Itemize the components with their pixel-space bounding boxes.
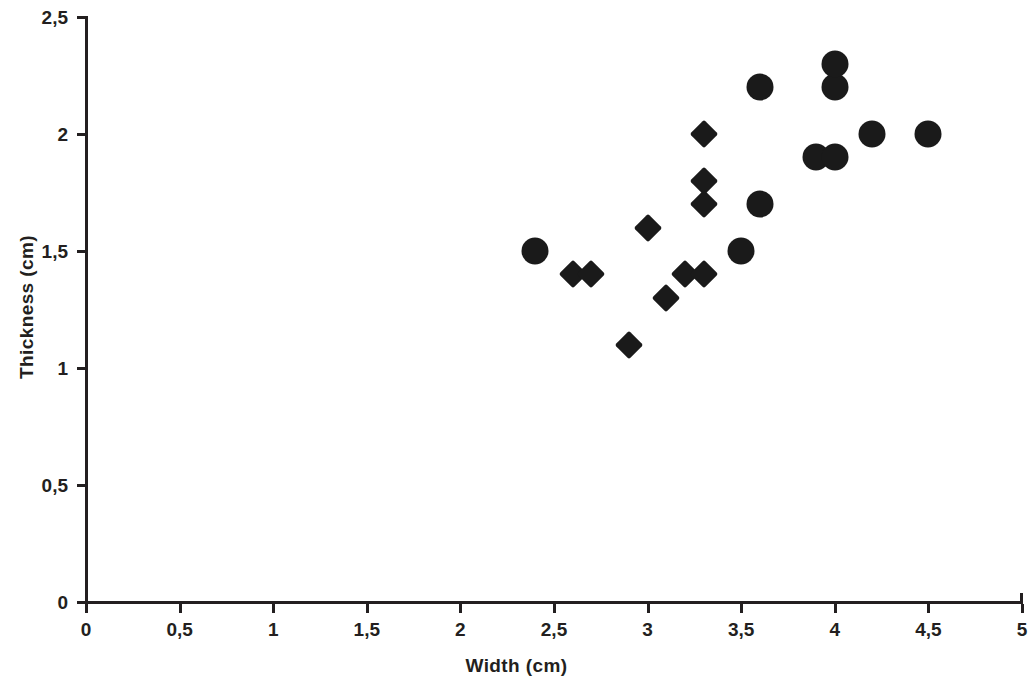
x-tick-mark	[740, 604, 743, 613]
x-tick-mark	[85, 604, 88, 613]
y-tick-mark	[77, 250, 86, 253]
data-point-diamond	[690, 260, 718, 288]
x-tick-label: 5	[1017, 620, 1028, 639]
x-tick-label: 2,5	[541, 620, 567, 639]
data-point-diamond	[652, 284, 680, 312]
x-tick-mark	[272, 604, 275, 613]
x-tick-label: 4,5	[915, 620, 941, 639]
data-point-diamond	[615, 330, 643, 358]
x-tick-label: 2	[455, 620, 466, 639]
y-tick-mark	[77, 16, 86, 19]
data-point-circle	[522, 238, 549, 265]
x-tick-label: 1,5	[354, 620, 380, 639]
x-tick-label: 3,5	[728, 620, 754, 639]
x-tick-mark	[1021, 604, 1024, 613]
data-point-circle	[746, 191, 773, 218]
data-point-circle	[821, 74, 848, 101]
x-tick-label: 3	[642, 620, 653, 639]
y-tick-label: 2,5	[0, 8, 68, 27]
x-tick-label: 1	[268, 620, 279, 639]
y-tick-mark	[77, 484, 86, 487]
y-tick-label: 0	[0, 593, 68, 612]
y-tick-label: 0,5	[0, 476, 68, 495]
x-tick-mark	[834, 604, 837, 613]
data-point-circle	[746, 74, 773, 101]
y-tick-mark	[77, 367, 86, 370]
data-point-diamond	[690, 167, 718, 195]
x-tick-mark	[647, 604, 650, 613]
x-tick-mark	[366, 604, 369, 613]
x-tick-mark	[459, 604, 462, 613]
x-tick-mark	[179, 604, 182, 613]
data-point-circle	[821, 144, 848, 171]
data-point-circle	[859, 121, 886, 148]
x-axis-end-cap	[1020, 593, 1023, 602]
y-tick-mark	[77, 133, 86, 136]
data-point-circle	[728, 238, 755, 265]
x-axis-title: Width (cm)	[0, 655, 1033, 677]
data-point-circle	[821, 50, 848, 77]
y-tick-label: 2	[0, 125, 68, 144]
data-point-diamond	[633, 213, 661, 241]
y-axis-line	[85, 16, 88, 604]
x-tick-label: 0,5	[166, 620, 192, 639]
data-point-diamond	[577, 260, 605, 288]
data-point-circle	[915, 121, 942, 148]
data-point-diamond	[690, 120, 718, 148]
x-tick-mark	[927, 604, 930, 613]
scatter-chart: 00,511,522,5 00,511,522,533,544,55 Width…	[0, 0, 1033, 683]
y-axis-title: Thickness (cm)	[16, 177, 38, 437]
x-tick-label: 0	[81, 620, 92, 639]
x-tick-mark	[553, 604, 556, 613]
x-tick-label: 4	[830, 620, 841, 639]
